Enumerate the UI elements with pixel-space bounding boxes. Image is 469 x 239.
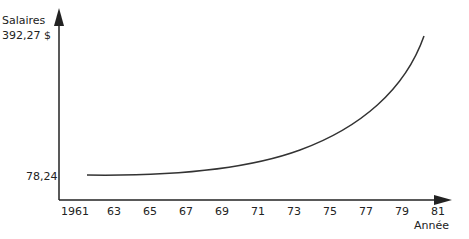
- x-tick-label: 1961: [61, 205, 89, 218]
- x-axis-arrow-icon: [434, 195, 452, 205]
- x-tick-label: 81: [431, 205, 445, 218]
- x-tick-label: 65: [143, 205, 157, 218]
- chart-canvas: [0, 0, 469, 239]
- x-tick-label: 71: [251, 205, 265, 218]
- x-tick-label: 79: [395, 205, 409, 218]
- y-min-label: 78,24: [26, 170, 58, 183]
- x-tick-label: 77: [359, 205, 373, 218]
- y-max-label: 392,27 $: [2, 29, 51, 42]
- x-tick-label: 67: [179, 205, 193, 218]
- x-axis-title: Année: [414, 219, 449, 232]
- y-axis-arrow-icon: [54, 8, 64, 26]
- x-tick-label: 73: [287, 205, 301, 218]
- x-tick-label: 75: [323, 205, 337, 218]
- x-tick-label: 69: [215, 205, 229, 218]
- x-tick-label: 63: [107, 205, 121, 218]
- salary-curve: [87, 36, 424, 175]
- y-axis-title: Salaires: [2, 14, 45, 27]
